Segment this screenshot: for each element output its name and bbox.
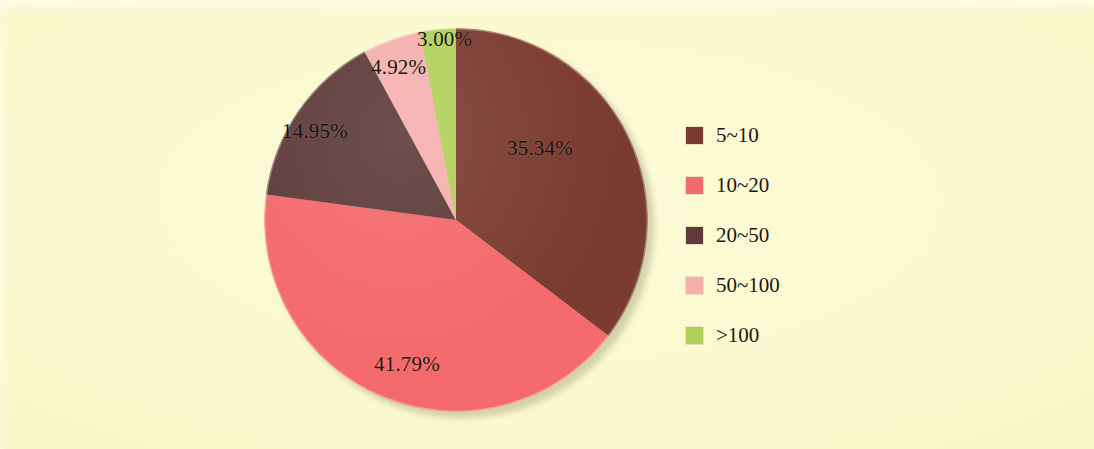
slice-label-5-10: 35.34% (507, 136, 573, 161)
slice-label-20-50: 14.95% (282, 119, 348, 144)
legend-color-swatch (686, 127, 703, 144)
legend-color-swatch (686, 177, 703, 194)
legend-color-swatch (686, 327, 703, 344)
slice-label-50-100: 4.92% (371, 55, 426, 80)
legend-item[interactable]: >100 (686, 310, 876, 360)
pie-slices-svg (264, 28, 648, 412)
pie-disc (264, 28, 648, 412)
legend-item[interactable]: 10~20 (686, 160, 876, 210)
pie-chart (264, 28, 648, 412)
legend-item[interactable]: 5~10 (686, 110, 876, 160)
legend-item-label: 10~20 (716, 173, 769, 198)
slice-label-over-100: 3.00% (417, 27, 472, 52)
legend-item-label: 5~10 (716, 123, 759, 148)
chart-legend: 5~1010~2020~5050~100>100 (686, 110, 876, 360)
pie-chart-figure: 35.34% 41.79% 14.95% 4.92% 3.00% 5~1010~… (0, 0, 1094, 449)
legend-item-label: 50~100 (716, 273, 780, 298)
legend-color-swatch (686, 227, 703, 244)
legend-item[interactable]: 50~100 (686, 260, 876, 310)
slice-label-10-20: 41.79% (374, 352, 440, 377)
legend-item-label: >100 (716, 323, 759, 348)
legend-item[interactable]: 20~50 (686, 210, 876, 260)
legend-item-label: 20~50 (716, 223, 769, 248)
legend-color-swatch (686, 277, 703, 294)
